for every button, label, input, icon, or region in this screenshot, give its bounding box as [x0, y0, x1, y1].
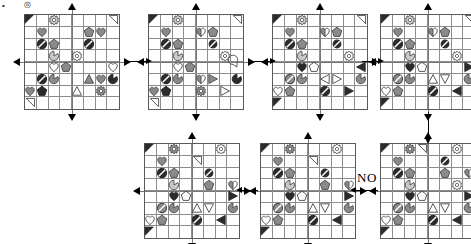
- grid-panel-7[interactable]: [380, 143, 471, 239]
- grid-cell[interactable]: [308, 27, 320, 39]
- grid-cell[interactable]: [416, 39, 428, 51]
- grid-cell[interactable]: [440, 144, 452, 156]
- grid-cell[interactable]: [344, 74, 356, 86]
- grid-cell[interactable]: [196, 50, 208, 62]
- grid-cell[interactable]: [405, 50, 417, 62]
- grid-cell[interactable]: [184, 74, 196, 86]
- grid-cell[interactable]: [180, 215, 192, 227]
- grid-cell[interactable]: [440, 39, 452, 51]
- grid-cell[interactable]: [297, 86, 309, 98]
- grid-cell[interactable]: [273, 168, 285, 180]
- grid-cell[interactable]: [145, 226, 157, 238]
- grid-cell[interactable]: [261, 168, 273, 180]
- grid-cell[interactable]: [332, 215, 344, 227]
- grid-cell[interactable]: [285, 50, 297, 62]
- grid-cell[interactable]: [296, 215, 308, 227]
- grid-cell[interactable]: [428, 97, 440, 109]
- grid-cell[interactable]: [296, 203, 308, 215]
- grid-cell[interactable]: [37, 62, 49, 74]
- grid-cell[interactable]: [208, 74, 220, 86]
- grid-cell[interactable]: [440, 97, 452, 109]
- grid-cell[interactable]: [184, 27, 196, 39]
- grid-cell[interactable]: [220, 50, 232, 62]
- grid-cell[interactable]: [184, 39, 196, 51]
- grid-cell[interactable]: [416, 27, 428, 39]
- grid-cell[interactable]: [72, 74, 84, 86]
- grid-cell[interactable]: [231, 39, 243, 51]
- grid-cell[interactable]: [107, 97, 119, 109]
- grid-cell[interactable]: [297, 39, 309, 51]
- grid-cell[interactable]: [355, 39, 367, 51]
- grid-cell[interactable]: [428, 203, 440, 215]
- grid-cell[interactable]: [381, 191, 393, 203]
- grid-cell[interactable]: [463, 179, 471, 191]
- grid-cell[interactable]: [216, 191, 228, 203]
- grid-cell[interactable]: [227, 144, 239, 156]
- grid-cell[interactable]: [381, 97, 393, 109]
- grid-cell[interactable]: [428, 144, 440, 156]
- grid-cell[interactable]: [308, 50, 320, 62]
- grid-cell[interactable]: [463, 144, 471, 156]
- grid-cell[interactable]: [60, 15, 72, 27]
- grid-cell[interactable]: [149, 15, 161, 27]
- grid-cell[interactable]: [297, 15, 309, 27]
- grid-cell[interactable]: [428, 226, 440, 238]
- grid-cell[interactable]: [452, 97, 464, 109]
- grid-cell[interactable]: [161, 97, 173, 109]
- grid-cell[interactable]: [308, 168, 320, 180]
- grid-cell[interactable]: [285, 144, 297, 156]
- grid-cell[interactable]: [285, 39, 297, 51]
- grid-cell[interactable]: [463, 86, 471, 98]
- grid-cell[interactable]: [332, 203, 344, 215]
- grid-cell[interactable]: [173, 15, 185, 27]
- grid-cell[interactable]: [440, 50, 452, 62]
- grid-cell[interactable]: [196, 62, 208, 74]
- grid-cell[interactable]: [149, 86, 161, 98]
- grid-cell[interactable]: [161, 15, 173, 27]
- grid-cell[interactable]: [196, 39, 208, 51]
- grid-cell[interactable]: [463, 191, 471, 203]
- grid-cell[interactable]: [452, 144, 464, 156]
- grid-cell[interactable]: [192, 191, 204, 203]
- grid-cell[interactable]: [428, 179, 440, 191]
- grid-cell[interactable]: [393, 27, 405, 39]
- grid-cell[interactable]: [204, 156, 216, 168]
- grid-cell[interactable]: [320, 226, 332, 238]
- grid-cell[interactable]: [261, 203, 273, 215]
- grid-cell[interactable]: [332, 86, 344, 98]
- grid-cell[interactable]: [192, 156, 204, 168]
- grid-cell[interactable]: [343, 156, 355, 168]
- grid-cell[interactable]: [393, 168, 405, 180]
- grid-cell[interactable]: [60, 62, 72, 74]
- grid-cell[interactable]: [196, 27, 208, 39]
- grid-cell[interactable]: [261, 144, 273, 156]
- grid-cell[interactable]: [84, 62, 96, 74]
- grid-cell[interactable]: [393, 39, 405, 51]
- grid-cell[interactable]: [231, 97, 243, 109]
- grid-cell[interactable]: [440, 86, 452, 98]
- grid-cell[interactable]: [84, 86, 96, 98]
- grid-cell[interactable]: [60, 27, 72, 39]
- grid-cell[interactable]: [440, 168, 452, 180]
- grid-cell[interactable]: [157, 179, 169, 191]
- grid-cell[interactable]: [463, 226, 471, 238]
- grid-cell[interactable]: [204, 226, 216, 238]
- grid-cell[interactable]: [157, 215, 169, 227]
- grid-cell[interactable]: [440, 215, 452, 227]
- grid-cell[interactable]: [37, 50, 49, 62]
- grid-cell[interactable]: [393, 144, 405, 156]
- grid-cell[interactable]: [320, 191, 332, 203]
- grid-cell[interactable]: [145, 144, 157, 156]
- grid-cell[interactable]: [220, 86, 232, 98]
- grid-cell[interactable]: [463, 215, 471, 227]
- grid-cell[interactable]: [381, 156, 393, 168]
- grid-cell[interactable]: [49, 27, 61, 39]
- grid-cell[interactable]: [332, 179, 344, 191]
- grid-cell[interactable]: [273, 191, 285, 203]
- grid-cell[interactable]: [84, 27, 96, 39]
- grid-cell[interactable]: [96, 50, 108, 62]
- grid-cell[interactable]: [452, 15, 464, 27]
- grid-cell[interactable]: [285, 74, 297, 86]
- grid-cell[interactable]: [96, 27, 108, 39]
- grid-cell[interactable]: [452, 39, 464, 51]
